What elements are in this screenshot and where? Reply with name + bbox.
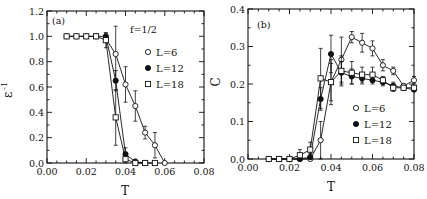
y-tick-label: 1.2 (29, 6, 44, 17)
y-tick-label: 0.3 (230, 41, 245, 52)
legend-label: L=18 (156, 79, 184, 90)
data-point (401, 85, 406, 90)
data-point (133, 103, 138, 108)
y-tick-label: 0.0 (29, 158, 44, 169)
x-tick-label: 0.04 (320, 162, 341, 173)
panel-b-specific-heat-chart: 0.000.020.040.060.080.00.10.20.30.4TC(b)… (209, 4, 425, 195)
data-point (318, 138, 323, 143)
data-point (308, 147, 313, 152)
x-tick-label: 0.02 (279, 162, 300, 173)
y-tick-label: 0.1 (230, 116, 245, 127)
legend-label: L=18 (364, 135, 392, 146)
data-point (297, 153, 302, 158)
data-point (339, 68, 344, 73)
data-point (143, 130, 148, 135)
y-tick-label: 0.2 (230, 79, 245, 90)
data-point (74, 34, 79, 39)
data-point (360, 72, 365, 77)
x-tick-label: 0.06 (362, 162, 383, 173)
panel-label: (b) (257, 19, 271, 30)
data-point (318, 76, 323, 81)
legend-label: L=12 (364, 119, 392, 130)
panel-a-energy-ratio-chart: 0.000.020.040.060.080.00.20.40.60.81.01.… (0, 6, 215, 199)
y-axis-label: C (209, 77, 223, 86)
data-point (370, 72, 375, 77)
data-point (162, 160, 167, 165)
data-point (113, 78, 118, 83)
data-point (287, 156, 292, 161)
data-point (84, 34, 89, 39)
data-point (411, 78, 416, 83)
data-point (266, 156, 271, 161)
data-point (380, 63, 385, 68)
x-tick-label: 0.08 (193, 166, 214, 177)
legend-marker-icon (145, 65, 150, 70)
data-point (143, 160, 148, 165)
data-point (93, 34, 98, 39)
data-point (123, 157, 128, 162)
legend-marker-icon (145, 49, 150, 54)
x-tick-label: 0.04 (115, 166, 136, 177)
frustration-annotation: f=1/2 (130, 24, 157, 35)
legend-marker-icon (353, 105, 358, 110)
data-point (133, 160, 138, 165)
series-l6 (266, 32, 416, 162)
data-point (277, 156, 282, 161)
legend-marker-icon (353, 137, 358, 142)
legend-label: L=6 (156, 47, 177, 58)
y-tick-label: 0.8 (29, 56, 44, 67)
data-point (113, 51, 118, 56)
y-tick-label: 0.4 (230, 4, 245, 15)
data-point (370, 46, 375, 51)
data-point (113, 115, 118, 120)
x-axis-label: T (327, 180, 335, 194)
x-tick-label: 0.08 (403, 162, 424, 173)
y-axis-label: ε-1 (0, 82, 15, 98)
series-l18 (64, 33, 158, 166)
series-l18 (266, 48, 416, 161)
legend-item: L=12 (353, 119, 391, 130)
legend-label: L=6 (364, 103, 385, 114)
data-point (152, 143, 157, 148)
data-point (349, 35, 354, 40)
legend-marker-icon (145, 81, 150, 86)
legend-item: L=18 (353, 135, 391, 146)
legend-label: L=12 (156, 63, 184, 74)
legend-item: L=18 (145, 79, 183, 90)
data-point (391, 85, 396, 90)
legend-marker-icon (353, 121, 358, 126)
x-tick-label: 0.02 (76, 166, 97, 177)
x-axis-label: T (121, 184, 129, 198)
data-point (64, 34, 69, 39)
data-point (411, 85, 416, 90)
data-point (391, 68, 396, 73)
data-point (328, 51, 333, 56)
y-tick-label: 1.0 (29, 31, 44, 42)
legend-item: L=12 (145, 63, 183, 74)
legend-item: L=6 (353, 103, 385, 114)
y-tick-label: 0.4 (29, 107, 44, 118)
y-tick-label: 0.6 (29, 82, 44, 93)
data-point (360, 40, 365, 45)
data-point (380, 78, 385, 83)
data-point (349, 70, 354, 75)
data-point (152, 160, 157, 165)
panel-label: (a) (52, 15, 65, 26)
data-point (103, 38, 108, 43)
data-point (123, 82, 128, 87)
figure: 0.000.020.040.060.080.00.20.40.60.81.01.… (0, 0, 427, 199)
x-tick-label: 0.06 (154, 166, 175, 177)
legend-item: L=6 (145, 47, 177, 58)
y-tick-label: 0.0 (230, 154, 245, 165)
data-point (328, 80, 333, 85)
y-tick-label: 0.2 (29, 132, 44, 143)
